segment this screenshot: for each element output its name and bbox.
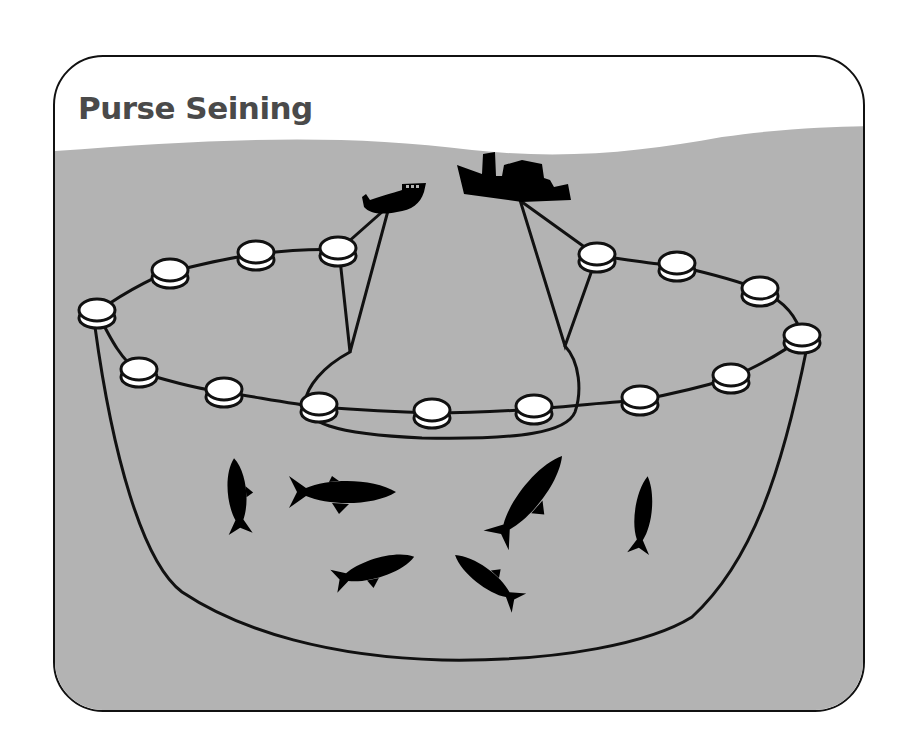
float-icon — [579, 243, 615, 272]
float-icon — [320, 237, 356, 266]
float-icon — [713, 364, 749, 393]
float-icon — [79, 299, 115, 328]
float-icon — [414, 399, 450, 428]
purse-seining-illustration — [55, 57, 865, 712]
float-icon — [622, 386, 658, 415]
diagram-title: Purse Seining — [78, 90, 313, 126]
float-icon — [152, 259, 188, 288]
float-icon — [121, 358, 157, 387]
water-surface — [55, 126, 865, 712]
float-icon — [742, 277, 778, 306]
float-icon — [516, 395, 552, 424]
float-icon — [301, 393, 337, 422]
diagram-card: Purse Seining — [53, 55, 865, 712]
float-icon — [784, 324, 820, 353]
float-icon — [238, 241, 274, 270]
float-icon — [659, 252, 695, 281]
float-icon — [206, 378, 242, 407]
